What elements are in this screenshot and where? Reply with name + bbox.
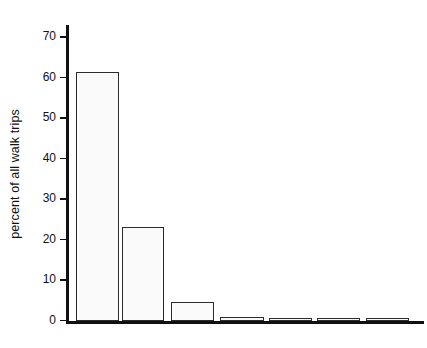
bar-1 (76, 72, 119, 321)
bars-layer (0, 0, 427, 348)
bar-3 (171, 302, 214, 321)
bar-6 (317, 318, 360, 321)
bar-2 (122, 227, 164, 321)
bar-4 (220, 317, 264, 321)
bar-7 (366, 318, 409, 321)
bar-chart: percent of all walk trips 01020304050607… (0, 0, 427, 348)
bar-5 (269, 318, 312, 321)
